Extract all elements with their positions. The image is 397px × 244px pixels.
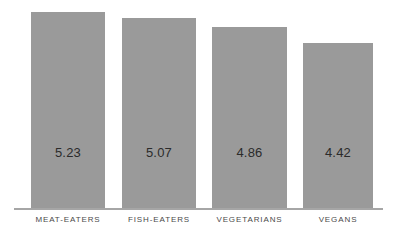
bar-fish-eaters[interactable] [122, 18, 196, 209]
bar-group: 4.42 [303, 43, 373, 209]
bar-value-label: 4.42 [303, 146, 373, 159]
bar-meat-eaters[interactable] [31, 12, 105, 209]
bar-vegans[interactable] [303, 43, 373, 209]
plot-area: 5.23 5.07 4.86 4.42 [0, 0, 397, 209]
bar-group: 5.07 [122, 18, 196, 209]
x-axis-category-labels: MEAT-EATERS FISH-EATERS VEGETARIANS VEGA… [0, 214, 397, 234]
bar-value-label: 5.23 [31, 146, 105, 159]
x-axis-line [14, 208, 383, 210]
category-label-vegans: VEGANS [281, 214, 395, 226]
bar-chart: 5.23 5.07 4.86 4.42 MEAT-EATERS FISH-EAT… [0, 0, 397, 244]
bar-group: 5.23 [31, 12, 105, 209]
bar-value-label: 5.07 [122, 146, 196, 159]
bar-value-label: 4.86 [212, 146, 287, 159]
bar-vegetarians[interactable] [212, 27, 287, 209]
bar-group: 4.86 [212, 27, 287, 209]
